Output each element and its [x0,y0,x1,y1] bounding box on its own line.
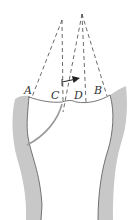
bone-diagram: A C D B [0,0,138,220]
label-A: A [23,84,32,97]
label-D: D [73,89,83,102]
line-apex-to-A [32,20,62,97]
line-apex-to-C [62,20,63,102]
label-C: C [51,89,60,102]
dashed-lines [32,14,107,112]
fracture-line [27,104,62,145]
label-B: B [93,84,102,97]
arrowhead-icon [72,76,80,83]
displacement-arrow [62,76,80,86]
